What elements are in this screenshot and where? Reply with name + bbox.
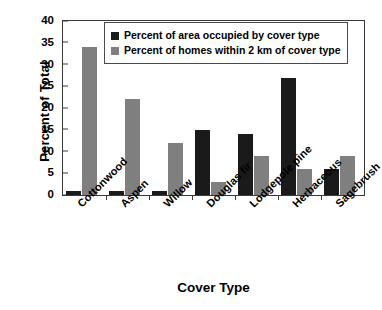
- x-tick-mark: [278, 195, 279, 200]
- bar: [195, 130, 210, 195]
- y-tick-label: 40: [41, 14, 54, 27]
- legend-entry-label: Percent of area occupied by cover type: [124, 29, 320, 42]
- x-tick-mark: [106, 195, 107, 200]
- y-tick-label: 20: [41, 101, 54, 114]
- bar: [66, 191, 81, 195]
- bar: [82, 47, 97, 195]
- x-axis-title: Cover Type: [62, 280, 365, 295]
- dark-swatch-icon: [111, 32, 119, 40]
- x-tick-mark: [235, 195, 236, 200]
- y-tick-label: 35: [41, 35, 54, 48]
- x-tick-mark: [192, 195, 193, 200]
- y-tick-label: 15: [41, 122, 54, 135]
- y-tick-label: 10: [41, 144, 54, 157]
- y-tick-label: 0: [48, 188, 54, 201]
- y-tick-label: 5: [48, 166, 54, 179]
- chart-legend: Percent of area occupied by cover type P…: [104, 22, 348, 64]
- x-tick-mark: [149, 195, 150, 200]
- y-tick-label: 30: [41, 57, 54, 70]
- legend-entry-label: Percent of homes within 2 km of cover ty…: [124, 44, 340, 57]
- bar: [152, 191, 167, 195]
- gray-swatch-icon: [111, 47, 119, 55]
- bar-group: [63, 21, 106, 195]
- x-tick-mark: [321, 195, 322, 200]
- legend-entry: Percent of homes within 2 km of cover ty…: [111, 43, 340, 58]
- legend-entry: Percent of area occupied by cover type: [111, 28, 340, 43]
- bar: [109, 191, 124, 195]
- y-tick-label: 25: [41, 79, 54, 92]
